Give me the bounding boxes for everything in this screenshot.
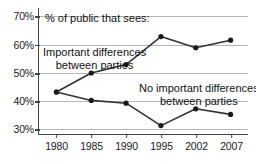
data-point: [193, 45, 198, 50]
series-label-no-important-line1: No important differences: [139, 82, 256, 95]
series-label-important: Important differences between parties: [43, 46, 146, 71]
x-tick-label: 2002: [185, 140, 208, 152]
x-tick-label: 1985: [80, 140, 103, 152]
series-layer: [39, 8, 248, 134]
data-point: [89, 70, 94, 75]
chart-title-text: % of public that sees:: [45, 12, 150, 25]
data-point: [54, 89, 59, 94]
x-tick: [231, 134, 233, 138]
x-tick-label: 2007: [220, 140, 243, 152]
series-label-no-important: No important differences between parties: [139, 82, 256, 107]
data-point: [158, 123, 163, 128]
series-label-important-line2: between parties: [43, 59, 146, 72]
data-point: [89, 98, 94, 103]
chart-container: 30%40%50%60%70% 198019851990199520022007…: [0, 0, 256, 164]
x-tick: [161, 134, 163, 138]
x-tick-label: 1980: [45, 140, 68, 152]
y-tick-label: 60%: [14, 39, 34, 51]
x-tick: [91, 134, 93, 138]
data-point: [158, 34, 163, 39]
x-tick: [126, 134, 128, 138]
plot-area: 30%40%50%60%70% 198019851990199520022007…: [38, 8, 248, 135]
data-point: [228, 38, 233, 43]
x-tick: [56, 134, 58, 138]
chart-title: % of public that sees:: [45, 12, 150, 25]
x-tick-label: 1995: [150, 140, 173, 152]
data-point: [228, 112, 233, 117]
data-point: [123, 101, 128, 106]
y-tick-label: 50%: [14, 67, 34, 79]
series-label-no-important-line2: between parties: [139, 95, 256, 108]
y-tick-label: 40%: [14, 95, 34, 107]
x-tick: [196, 134, 198, 138]
series-label-important-line1: Important differences: [43, 46, 146, 59]
y-tick-label: 30%: [14, 123, 34, 135]
y-tick-label: 70%: [14, 10, 34, 22]
x-tick-label: 1990: [115, 140, 138, 152]
